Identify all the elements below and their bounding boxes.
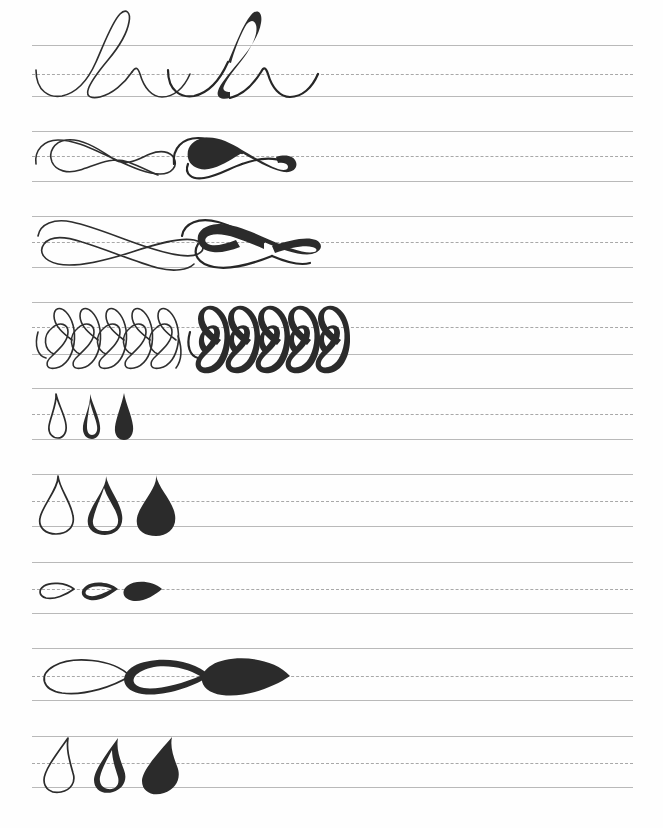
row-1-exemplar-weighted <box>168 12 318 99</box>
row-4-exemplar-monoline <box>36 309 180 369</box>
practice-row-4 <box>0 292 663 388</box>
row-9-comma-partial <box>94 738 125 793</box>
row-3-top-rule <box>32 216 633 217</box>
row-9-glyphs <box>32 736 633 828</box>
row-6-glyphs <box>32 474 633 562</box>
row-9-base-rule <box>32 787 633 788</box>
practice-row-8 <box>0 648 663 736</box>
row-7-htear-solid <box>123 582 162 601</box>
row-3-exemplar-monoline <box>38 221 203 270</box>
row-4-exemplar-weighted <box>188 306 350 374</box>
row-1-mid-rule <box>32 74 633 75</box>
row-2-top-rule <box>32 131 633 132</box>
row-7-mid-rule <box>32 589 633 590</box>
row-2-glyphs <box>32 120 633 206</box>
row-3-glyphs <box>32 206 633 292</box>
row-3-exemplar-weighted <box>182 220 321 268</box>
row-1-base-rule <box>32 96 633 97</box>
row-2-exemplar-weighted <box>174 138 297 179</box>
row-2-base-rule <box>32 181 633 182</box>
row-4-top-rule <box>32 302 633 303</box>
practice-row-3 <box>0 206 663 292</box>
row-5-mid-rule <box>32 414 633 415</box>
practice-row-2 <box>0 120 663 206</box>
row-4-glyphs <box>32 292 633 388</box>
row-6-top-rule <box>32 474 633 475</box>
row-9-comma-outline <box>44 738 74 792</box>
row-8-glyphs <box>32 648 633 736</box>
row-9-comma-solid <box>142 737 179 794</box>
practice-sheet <box>0 0 663 828</box>
row-7-htear-outline <box>40 583 74 598</box>
row-5-teardrop-outline <box>49 394 66 438</box>
row-6-base-rule <box>32 526 633 527</box>
row-1-glyphs <box>32 0 633 120</box>
row-7-top-rule <box>32 562 633 563</box>
row-5-base-rule <box>32 439 633 440</box>
row-5-teardrop-solid <box>115 393 133 440</box>
row-3-base-rule <box>32 267 633 268</box>
practice-row-7 <box>0 562 663 648</box>
row-4-mid-rule <box>32 327 633 328</box>
row-5-teardrop-partial <box>83 394 100 439</box>
practice-row-6 <box>0 474 663 562</box>
row-9-top-rule <box>32 736 633 737</box>
row-2-exemplar-monoline <box>36 140 175 175</box>
row-2-mid-rule <box>32 156 633 157</box>
row-8-base-rule <box>32 700 633 701</box>
row-8-top-rule <box>32 648 633 649</box>
row-7-htear-partial <box>82 583 118 601</box>
practice-row-5 <box>0 388 663 474</box>
row-3-mid-rule <box>32 242 633 243</box>
row-7-base-rule <box>32 613 633 614</box>
row-8-mid-rule <box>32 676 633 677</box>
row-7-glyphs <box>32 562 633 648</box>
row-1-top-rule <box>32 45 633 46</box>
row-8-htear-partial <box>124 660 210 695</box>
row-9-mid-rule <box>32 763 633 764</box>
row-4-base-rule <box>32 354 633 355</box>
row-5-glyphs <box>32 388 633 474</box>
practice-row-1 <box>0 0 663 120</box>
row-6-mid-rule <box>32 501 633 502</box>
practice-row-9 <box>0 736 663 828</box>
row-5-top-rule <box>32 388 633 389</box>
row-1-exemplar-monoline <box>36 11 190 98</box>
